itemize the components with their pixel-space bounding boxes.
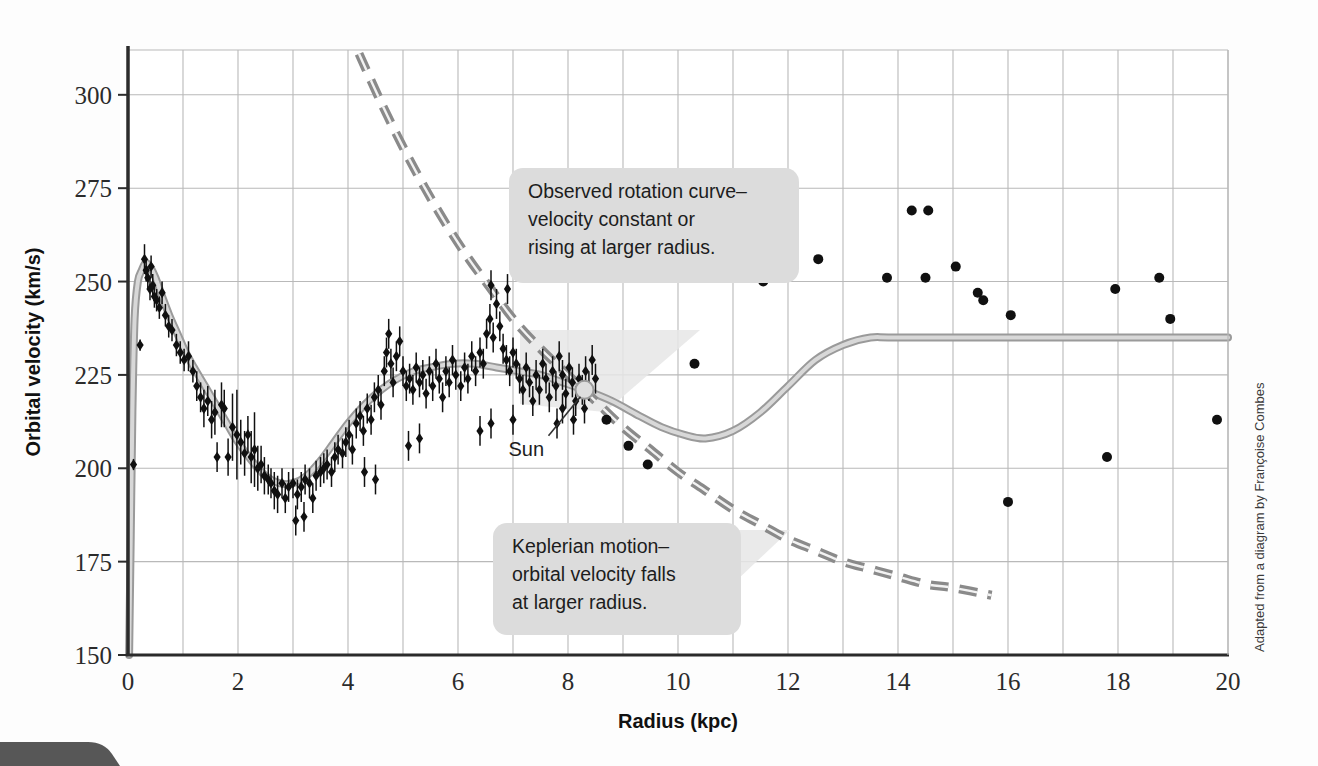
x-tick-label: 18 [1106, 668, 1131, 695]
y-tick-label: 175 [75, 549, 113, 576]
keplerian-callout-line-1: Keplerian motion– [512, 535, 669, 557]
data-point-circle [978, 295, 988, 305]
observed-callout-line-1: Observed rotation curve– [528, 180, 747, 202]
x-tick-label: 0 [122, 668, 135, 695]
data-point-circle [1165, 314, 1175, 324]
data-point-circle [643, 460, 653, 470]
data-point-circle [1003, 497, 1013, 507]
data-point-circle [951, 262, 961, 272]
x-tick-label: 14 [886, 668, 912, 695]
y-tick-label: 150 [75, 642, 113, 669]
data-point-circle [602, 415, 612, 425]
keplerian-callout-line-2: orbital velocity falls [512, 563, 676, 585]
x-tick-label: 6 [452, 668, 465, 695]
observed-rotation-callout[interactable]: Observed rotation curve– velocity consta… [509, 168, 799, 283]
data-point-circle [921, 273, 931, 283]
rotation-curve-plot: Sun 024681012141618201501752002252502753… [0, 0, 1318, 766]
x-axis-title: Radius (kpc) [618, 710, 738, 732]
y-tick-label: 275 [75, 175, 113, 202]
x-tick-label: 16 [996, 668, 1021, 695]
x-tick-label: 8 [562, 668, 575, 695]
keplerian-callout[interactable]: Keplerian motion– orbital velocity falls… [493, 523, 741, 635]
x-tick-label: 12 [776, 668, 801, 695]
keplerian-callout-line-3: at larger radius. [512, 591, 647, 613]
x-tick-label: 2 [232, 668, 245, 695]
observed-callout-line-2: velocity constant or [528, 208, 695, 230]
y-tick-label: 300 [75, 82, 113, 109]
data-point-circle [1154, 273, 1164, 283]
corner-tab-shape [0, 742, 120, 766]
y-axis-title: Orbital velocity (km/s) [22, 248, 44, 457]
x-tick-label: 20 [1216, 668, 1241, 695]
data-point-circle [1102, 452, 1112, 462]
sun-label: Sun [509, 438, 545, 460]
sun-marker[interactable] [576, 381, 594, 399]
y-tick-label: 225 [75, 362, 113, 389]
data-point-circle [882, 273, 892, 283]
data-point-circle [907, 206, 917, 216]
figure-credit: Adapted from a diagram by Françoise Comb… [1252, 382, 1267, 652]
data-point-circle [1212, 415, 1222, 425]
data-point-circle [923, 206, 933, 216]
data-point-circle [624, 441, 634, 451]
y-tick-label: 200 [75, 455, 113, 482]
x-tick-label: 10 [666, 668, 691, 695]
data-point-circle [1006, 310, 1016, 320]
rotation-curve-figure: Sun 024681012141618201501752002252502753… [0, 0, 1318, 766]
data-point-circle [690, 359, 700, 369]
data-point-circle [813, 254, 823, 264]
data-point-circle [1110, 284, 1120, 294]
x-tick-label: 4 [342, 668, 355, 695]
observed-callout-line-3: rising at larger radius. [528, 236, 716, 258]
y-tick-label: 250 [75, 269, 113, 296]
